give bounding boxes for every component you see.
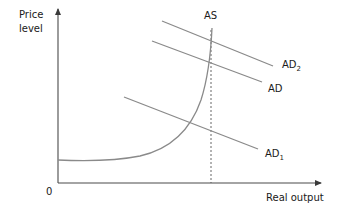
ad1-label: AD1 — [265, 148, 284, 162]
x-axis-label: Real output — [266, 192, 324, 203]
ad-label: AD — [268, 83, 283, 94]
as-label: AS — [204, 10, 217, 21]
y-axis-label-line1: Price — [19, 9, 43, 20]
ad2-label-main: AD — [282, 59, 297, 70]
ad2-label: AD2 — [282, 59, 301, 73]
ad1-label-main: AD — [265, 148, 280, 159]
ad-as-diagram: Price level 0 Real output AS AD2 AD AD1 — [0, 0, 364, 208]
ad2-label-subscript: 2 — [297, 65, 301, 73]
ad1-curve — [124, 97, 258, 149]
y-axis-label-line2: level — [19, 23, 43, 34]
origin-label: 0 — [46, 186, 52, 197]
as-curve — [58, 28, 212, 161]
ad1-label-subscript: 1 — [280, 154, 284, 162]
ad2-curve — [162, 21, 273, 66]
